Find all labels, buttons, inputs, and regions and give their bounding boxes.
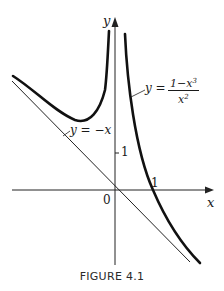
x-axis-label: x: [207, 196, 214, 209]
y-tick-label-1: 1: [121, 146, 129, 158]
asymptote-label: y = −x: [70, 124, 111, 136]
asymptote-line: [12, 81, 190, 262]
denominator-exponent: 2: [184, 93, 188, 101]
x-tick-label-1: 1: [151, 177, 159, 189]
curve-label-numerator: 1−x3: [168, 75, 199, 91]
curve-label-lhs: y =: [145, 82, 166, 94]
y-axis-label: y: [103, 14, 110, 27]
numerator-text: 1−x: [170, 77, 192, 90]
curve-label-leader: [131, 90, 145, 97]
curve-right-branch: [125, 34, 200, 263]
figure-caption: FIGURE 4.1: [0, 270, 224, 283]
function-graph: [0, 0, 224, 291]
numerator-exponent: 3: [192, 77, 196, 85]
x-axis-arrow-icon: [205, 187, 214, 194]
y-axis-arrow-icon: [112, 17, 119, 27]
curve-label-fraction: 1−x3 x2: [168, 75, 199, 106]
curve-label-denominator: x2: [168, 91, 199, 106]
curve-left-branch: [13, 31, 109, 121]
origin-label: 0: [103, 194, 111, 206]
